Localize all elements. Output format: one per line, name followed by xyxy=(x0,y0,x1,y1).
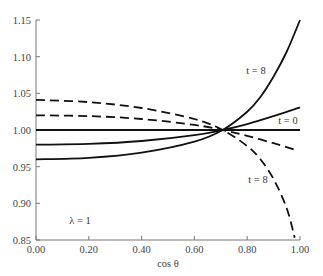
x-tick-label: 0.80 xyxy=(238,244,256,255)
x-tick-label: 1.00 xyxy=(291,244,309,255)
tick-labels: 0.000.200.400.600.801.000.850.900.951.00… xyxy=(13,15,310,255)
y-tick-label: 1.00 xyxy=(13,125,31,136)
chart: 0.000.200.400.600.801.000.850.900.951.00… xyxy=(0,0,323,276)
y-tick-label: 1.05 xyxy=(13,88,31,99)
x-tick-label: 0.20 xyxy=(80,244,98,255)
annotation-t8-upper: t = 8 xyxy=(246,65,265,76)
y-tick-label: 0.90 xyxy=(13,198,31,209)
y-tick-label: 1.10 xyxy=(13,52,31,63)
annotation-t0: t = 0 xyxy=(278,115,297,126)
plot-series xyxy=(36,20,300,238)
annotation-t8-lower: t = 8 xyxy=(248,174,267,185)
annotation-lambda: λ = 1 xyxy=(69,215,91,226)
y-tick-label: 1.15 xyxy=(13,15,31,26)
x-tick-label: 0.60 xyxy=(185,244,203,255)
y-tick-label: 0.95 xyxy=(13,162,31,173)
y-tick-label: 0.85 xyxy=(13,235,31,246)
x-tick-label: 0.40 xyxy=(132,244,150,255)
x-axis-label: cos θ xyxy=(157,258,179,269)
